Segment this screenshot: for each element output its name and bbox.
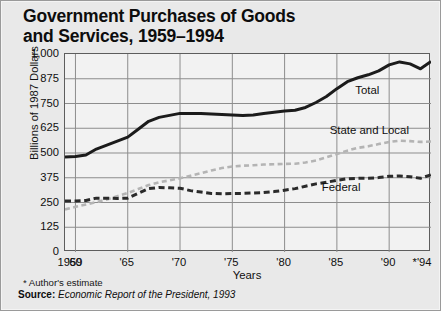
x-tick-label: '90 <box>381 256 396 268</box>
source-key: Source: <box>18 289 55 300</box>
source-value: Economic Report of the President, 1993 <box>58 289 235 300</box>
x-tick-label: '65 <box>119 256 134 268</box>
series-line-state-and-local <box>65 141 431 210</box>
x-tick-label: '70 <box>172 256 187 268</box>
y-axis-label: Billions of 1987 Dollars <box>28 8 40 198</box>
y-tick-label: 875 <box>40 72 59 84</box>
footnote: * Author's estimate <box>23 277 103 288</box>
series-line-federal <box>65 175 431 201</box>
x-tick-label: '85 <box>329 256 344 268</box>
y-tick-label: 1,000 <box>31 47 59 59</box>
y-tick-label: 750 <box>40 97 59 109</box>
chart-figure: Government Purchases of Goods and Servic… <box>0 0 441 311</box>
source-line: Source: Economic Report of the President… <box>18 289 235 300</box>
chart-title: Government Purchases of Goods and Servic… <box>23 7 413 46</box>
y-tick-label: 125 <box>40 220 59 232</box>
y-tick-label: 250 <box>40 196 59 208</box>
plot-area-wrapper: 01252503755006257508751,000 1959'60'65'7… <box>64 53 430 251</box>
x-tick-label: '60 <box>67 256 82 268</box>
series-line-total <box>65 62 431 157</box>
x-tick-label: *'94 <box>413 256 432 268</box>
y-tick-label: 375 <box>40 171 59 183</box>
x-axis-label: Years <box>233 269 262 281</box>
y-tick-label: 500 <box>40 146 59 158</box>
series-label-federal: Federal <box>322 181 361 193</box>
series-label-state-and-local: State and Local <box>330 124 409 136</box>
x-tick-label: '75 <box>224 256 239 268</box>
series-label-total: Total <box>355 84 379 96</box>
x-tick-label: '80 <box>276 256 291 268</box>
y-tick-label: 625 <box>40 121 59 133</box>
